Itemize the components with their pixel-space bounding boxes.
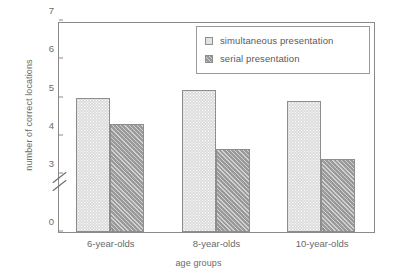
bar-10-year-olds-simultaneous (287, 101, 321, 232)
y-tick-label-0: 0 (33, 216, 59, 227)
chart-legend: simultaneous presentation serial present… (196, 26, 370, 74)
light-stipple-swatch-icon (205, 37, 213, 45)
x-tick-mark (218, 228, 219, 232)
bar-chart-figure: number of correct locations age groups 0… (0, 0, 397, 279)
x-tick-label-10-year-olds: 10-year-olds (296, 238, 349, 249)
bar-10-year-olds-serial (321, 159, 355, 232)
legend-label-simultaneous: simultaneous presentation (220, 35, 333, 46)
y-axis-title: number of correct locations (24, 30, 34, 200)
bar-8-year-olds-serial (216, 149, 250, 232)
x-tick-mark (323, 228, 324, 232)
x-tick-label-6-year-olds: 6-year-olds (87, 238, 135, 249)
y-tick-mark (59, 96, 63, 97)
y-tick-label-4: 4 (33, 119, 59, 130)
y-tick-label-6: 6 (33, 43, 59, 54)
legend-item-serial: serial presentation (205, 51, 361, 66)
legend-item-simultaneous: simultaneous presentation (205, 33, 361, 48)
y-tick-mark (59, 20, 63, 21)
dark-hatch-swatch-icon (205, 55, 213, 63)
y-tick-mark (59, 58, 63, 59)
bar-6-year-olds-simultaneous (76, 98, 110, 233)
y-tick-mark (59, 134, 63, 135)
x-tick-mark (112, 228, 113, 232)
y-tick-mark (59, 231, 63, 232)
y-tick-label-5: 5 (33, 81, 59, 92)
y-tick-label-3: 3 (33, 158, 59, 169)
x-tick-label-8-year-olds: 8-year-olds (193, 238, 241, 249)
y-tick-label-7: 7 (33, 5, 59, 16)
x-axis-title: age groups (0, 258, 397, 268)
bar-8-year-olds-simultaneous (182, 90, 216, 232)
bar-6-year-olds-serial (110, 124, 144, 232)
legend-label-serial: serial presentation (220, 53, 300, 64)
